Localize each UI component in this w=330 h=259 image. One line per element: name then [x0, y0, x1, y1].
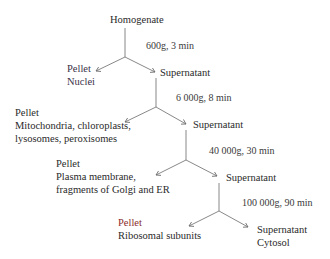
step4-supernatant-contents: Cytosol	[257, 236, 290, 249]
step1-condition: 600g, 3 min	[146, 39, 194, 52]
step4-pellet-label: Pellet	[118, 216, 142, 229]
step2-pellet-contents-line2: lysosomes, peroxisomes	[15, 132, 117, 145]
step3-pellet-contents-line2: fragments of Golgi and ER	[56, 183, 170, 196]
step2-condition: 6 000g, 8 min	[176, 91, 232, 104]
step3-condition: 40 000g, 30 min	[209, 144, 275, 157]
centrifugation-flow-diagram: Homogenate 600g, 3 min Pellet Nuclei Sup…	[0, 0, 330, 259]
step2-supernatant-label: Supernatant	[193, 118, 243, 131]
step2-pellet-contents-line1: Mitochondria, chloroplasts,	[15, 119, 131, 132]
step3-pellet-label: Pellet	[56, 157, 80, 170]
step1-supernatant-label: Supernatant	[160, 66, 210, 79]
step1-pellet-label: Pellet	[67, 62, 91, 75]
step4-pellet-contents: Ribosomal subunits	[118, 229, 201, 242]
step4-condition: 100 000g, 90 min	[242, 196, 313, 209]
step1-pellet-contents: Nuclei	[67, 75, 95, 88]
step3-supernatant-label: Supernatant	[226, 171, 276, 184]
step4-supernatant-label: Supernatant	[257, 223, 307, 236]
step2-pellet-label: Pellet	[15, 106, 39, 119]
step3-pellet-contents-line1: Plasma membrane,	[56, 170, 136, 183]
homogenate-label: Homogenate	[110, 13, 164, 26]
